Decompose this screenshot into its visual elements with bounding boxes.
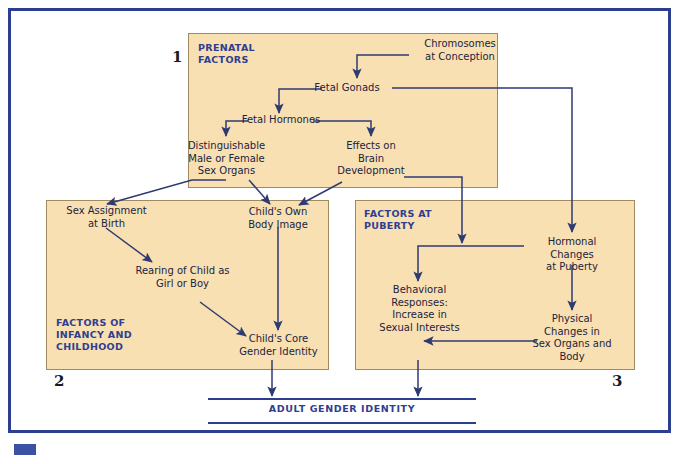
- edge-hormonal-to-behavioral: [418, 246, 524, 281]
- group-number-3: 3: [612, 372, 622, 390]
- node-fetal-hormones: Fetal Hormones: [240, 114, 322, 127]
- node-chromosomes-at-conception: Chromosomes at Conception: [405, 38, 515, 63]
- group-number-1: 1: [172, 48, 182, 66]
- edge-sex-organs-to-body-image: [249, 180, 270, 204]
- edge-sex-assignment-to-rearing: [106, 228, 152, 262]
- group-title-infancy-childhood: FACTORS OF INFANCY AND CHILDHOOD: [56, 317, 132, 353]
- node-behavioral-responses: Behavioral Responses: Increase in Sexual…: [366, 284, 473, 334]
- group-number-2: 2: [54, 372, 64, 390]
- figure-canvas: 1 2 3 PRENATAL FACTORS FACTORS OF INFANC…: [0, 0, 685, 464]
- outcome-banner-top-rule: [208, 398, 476, 400]
- node-rearing-of-child: Rearing of Child as Girl or Boy: [120, 265, 245, 290]
- outcome-adult-gender-identity: ADULT GENDER IDENTITY: [208, 403, 476, 414]
- edge-rearing-to-core-identity: [200, 302, 246, 336]
- node-fetal-gonads: Fetal Gonads: [307, 82, 387, 95]
- edge-chromosomes-to-fetal-gonads: [357, 55, 409, 78]
- node-hormonal-changes-at-puberty: Hormonal Changes at Puberty: [534, 236, 610, 274]
- node-childs-core-gender-identity: Child's Core Gender Identity: [235, 333, 322, 358]
- node-sex-assignment-at-birth: Sex Assignment at Birth: [54, 205, 159, 230]
- group-title-puberty: FACTORS AT PUBERTY: [364, 208, 432, 232]
- node-distinguishable-sex-organs: Distinguishable Male or Female Sex Organ…: [177, 140, 276, 178]
- node-physical-changes: Physical Changes in Sex Organs and Body: [528, 313, 616, 363]
- outcome-banner-bottom-rule: [208, 422, 476, 424]
- edge-sex-organs-to-sex-assignment: [107, 180, 226, 204]
- node-effects-on-brain-development: Effects on Brain Development: [331, 140, 411, 178]
- edge-brain-development-to-body-image: [299, 182, 342, 205]
- group-title-prenatal-factors: PRENATAL FACTORS: [198, 42, 255, 66]
- node-childs-own-body-image: Child's Own Body Image: [238, 206, 318, 231]
- arrow-layer: [0, 0, 685, 464]
